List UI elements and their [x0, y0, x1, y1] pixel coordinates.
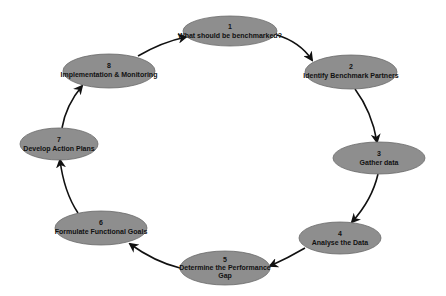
node-8-number: 8	[107, 62, 111, 69]
node-1: 1 What should be benchmarked?	[178, 16, 282, 46]
node-4-number: 4	[338, 230, 342, 237]
node-3: 3 Gather data	[333, 142, 425, 174]
arrow-6-to-7	[60, 160, 78, 213]
arrow-5-to-6	[130, 244, 180, 268]
node-7-number: 7	[57, 136, 61, 143]
node-3-number: 3	[377, 150, 381, 157]
arrow-4-to-5	[270, 248, 305, 266]
node-5-label-line2: Gap	[218, 272, 232, 280]
node-5-number: 5	[223, 256, 227, 263]
node-8-label: Implementation & Monitoring	[61, 71, 158, 79]
node-5: 5 Determine the Performance Gap	[179, 251, 271, 285]
arrow-7-to-8	[62, 86, 82, 128]
node-6-number: 6	[99, 219, 103, 226]
node-2-label: Identify Benchmark Partners	[303, 72, 398, 80]
benchmarking-cycle-diagram: 1 What should be benchmarked? 2 Identify…	[0, 0, 446, 296]
node-5-label-line1: Determine the Performance	[179, 264, 271, 271]
node-2: 2 Identify Benchmark Partners	[303, 55, 398, 89]
node-1-number: 1	[228, 23, 232, 30]
node-4: 4 Analyse the Data	[299, 222, 381, 254]
node-7-ellipse	[20, 128, 98, 160]
node-7-label: Develop Action Plans	[23, 145, 94, 153]
node-1-ellipse	[183, 16, 277, 46]
node-7: 7 Develop Action Plans	[20, 128, 98, 160]
node-4-ellipse	[299, 222, 381, 254]
node-6: 6 Formulate Functional Goals	[55, 211, 148, 245]
node-3-label: Gather data	[360, 159, 399, 166]
arrow-2-to-3	[355, 89, 377, 142]
node-8: 8 Implementation & Monitoring	[61, 54, 158, 88]
node-4-label: Analyse the Data	[312, 239, 369, 247]
node-1-label: What should be benchmarked?	[178, 32, 282, 39]
arrow-3-to-4	[352, 174, 378, 222]
arrow-1-to-2	[277, 35, 312, 60]
node-6-label: Formulate Functional Goals	[55, 228, 148, 235]
node-3-ellipse	[333, 142, 425, 174]
arrow-8-to-1	[138, 37, 186, 56]
node-2-number: 2	[349, 63, 353, 70]
